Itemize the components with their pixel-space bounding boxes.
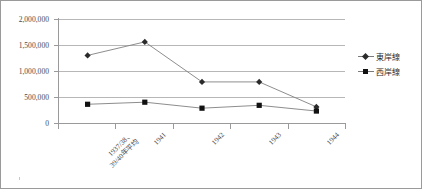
y-tick-mark <box>54 19 59 20</box>
x-tick-label-line: 1942 <box>210 131 226 147</box>
gridline-2000000 <box>59 19 345 20</box>
square-marker-icon <box>363 69 368 74</box>
x-tick-mark <box>230 124 231 129</box>
y-tick-label-1500000: 1,500,000 <box>19 42 49 50</box>
gridline-1500000 <box>59 45 345 46</box>
x-tick-label-1943: 1943 <box>267 131 284 148</box>
y-tick-label-0: 0 <box>45 120 49 128</box>
y-tick-label-500000: 500,000 <box>24 94 49 102</box>
chart-container: 2,000,000 1,500,000 1,000,000 500,000 0 … <box>0 0 422 189</box>
legend-entry-west-coast-line[interactable]: 西岸線 <box>358 64 418 79</box>
x-tick-mark <box>173 124 174 129</box>
x-tick-label-line: 1944 <box>325 131 341 147</box>
legend-label: 東岸線 <box>376 51 400 62</box>
gridline-1000000 <box>59 71 345 72</box>
gridline-500000 <box>59 97 345 98</box>
y-tick-mark <box>54 97 59 98</box>
x-tick-mark <box>115 124 116 129</box>
y-tick-mark <box>54 71 59 72</box>
legend-label: 西岸線 <box>376 66 400 77</box>
y-tick-label-1000000: 1,000,000 <box>19 68 49 76</box>
legend-swatch-diamond-icon <box>358 52 374 62</box>
x-tick-label-1944: 1944 <box>325 131 342 148</box>
diamond-marker-icon <box>362 52 369 59</box>
x-tick-label-1941: 1941 <box>152 131 169 148</box>
y-tick-mark <box>54 45 59 46</box>
x-tick-label-1942: 1942 <box>210 131 227 148</box>
x-tick-label-line: 1943 <box>267 131 283 147</box>
plot-area <box>59 19 345 123</box>
x-tick-label-line: 1941 <box>152 131 168 147</box>
x-tick-label-1937-1940-average: 1937/38、 39/40年平均 <box>102 131 141 170</box>
x-axis-line <box>58 123 346 124</box>
x-tick-mark <box>345 124 346 129</box>
y-tick-label-2000000: 2,000,000 <box>19 16 49 24</box>
legend-entry-east-coast-line[interactable]: 東岸線 <box>358 49 418 64</box>
scan-artefact <box>19 177 20 180</box>
x-tick-mark <box>58 124 59 129</box>
x-tick-mark <box>288 124 289 129</box>
legend-swatch-square-icon <box>358 67 374 77</box>
chart-legend: 東岸線 西岸線 <box>358 49 418 79</box>
